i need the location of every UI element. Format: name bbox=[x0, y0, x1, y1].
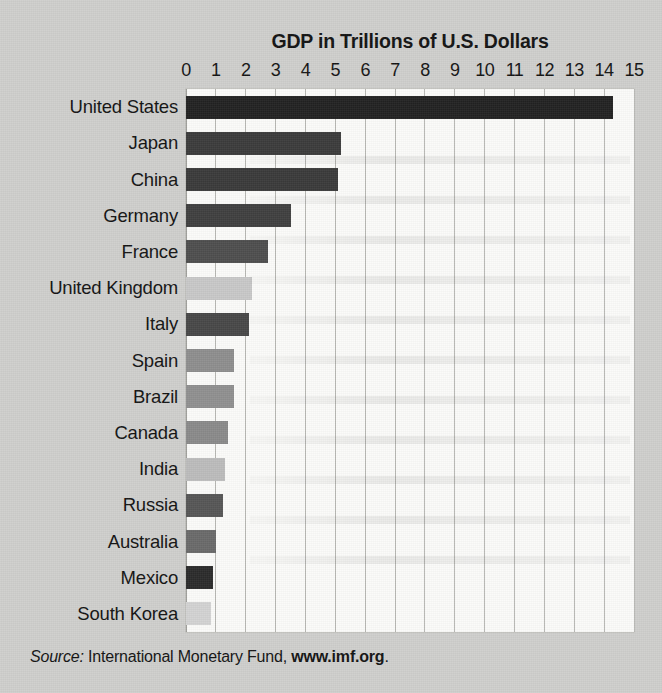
x-tick-label-9: 9 bbox=[450, 60, 460, 81]
category-label-brazil: Brazil bbox=[0, 386, 178, 408]
x-tick-label-15: 15 bbox=[624, 60, 643, 81]
category-label-south-korea: South Korea bbox=[0, 603, 178, 625]
category-axis-labels: United StatesJapanChinaGermanyFranceUnit… bbox=[0, 89, 178, 632]
category-label-united-states: United States bbox=[0, 96, 178, 118]
category-label-australia: Australia bbox=[0, 531, 178, 553]
category-label-france: France bbox=[0, 241, 178, 263]
bar-india bbox=[186, 458, 225, 481]
x-tick-label-2: 2 bbox=[241, 60, 251, 81]
bar-italy bbox=[186, 313, 249, 336]
category-label-russia: Russia bbox=[0, 494, 178, 516]
bar-united-kingdom bbox=[186, 277, 252, 300]
x-tick-label-12: 12 bbox=[535, 60, 554, 81]
category-label-china: China bbox=[0, 169, 178, 191]
category-label-india: India bbox=[0, 458, 178, 480]
x-tick-label-0: 0 bbox=[181, 60, 191, 81]
plot-area bbox=[186, 89, 634, 632]
x-axis-tick-labels: 0123456789101112131415 bbox=[186, 60, 634, 86]
source-period: . bbox=[384, 648, 388, 665]
bar-united-states bbox=[186, 96, 613, 119]
chart-title: GDP in Trillions of U.S. Dollars bbox=[186, 30, 634, 53]
bar-france bbox=[186, 240, 268, 263]
x-tick-label-11: 11 bbox=[506, 60, 524, 81]
x-tick-label-13: 13 bbox=[565, 60, 584, 81]
bar-south-korea bbox=[186, 602, 211, 625]
category-label-italy: Italy bbox=[0, 313, 178, 335]
source-url[interactable]: www.imf.org bbox=[291, 648, 384, 665]
category-label-japan: Japan bbox=[0, 132, 178, 154]
x-tick-label-8: 8 bbox=[420, 60, 430, 81]
source-text: International Monetary Fund, bbox=[84, 648, 291, 665]
x-tick-label-5: 5 bbox=[331, 60, 341, 81]
gdp-bar-chart-figure: GDP in Trillions of U.S. Dollars 0123456… bbox=[0, 0, 662, 693]
x-tick-label-6: 6 bbox=[360, 60, 370, 81]
bar-russia bbox=[186, 494, 223, 517]
x-tick-label-10: 10 bbox=[475, 60, 494, 81]
bar-mexico bbox=[186, 566, 213, 589]
x-tick-label-3: 3 bbox=[271, 60, 281, 81]
x-tick-label-1: 1 bbox=[211, 60, 221, 81]
bar-spain bbox=[186, 349, 234, 372]
bar-china bbox=[186, 168, 338, 191]
bar-brazil bbox=[186, 385, 234, 408]
bar-australia bbox=[186, 530, 216, 553]
category-label-united-kingdom: United Kingdom bbox=[0, 277, 178, 299]
bar-germany bbox=[186, 204, 291, 227]
bars-layer bbox=[186, 89, 634, 632]
bar-japan bbox=[186, 132, 341, 155]
source-label: Source: bbox=[30, 648, 84, 665]
bar-canada bbox=[186, 421, 228, 444]
category-label-spain: Spain bbox=[0, 350, 178, 372]
x-tick-label-7: 7 bbox=[390, 60, 400, 81]
x-tick-label-14: 14 bbox=[595, 60, 614, 81]
category-label-canada: Canada bbox=[0, 422, 178, 444]
category-label-germany: Germany bbox=[0, 205, 178, 227]
category-label-mexico: Mexico bbox=[0, 567, 178, 589]
x-tick-label-4: 4 bbox=[301, 60, 311, 81]
source-note: Source: International Monetary Fund, www… bbox=[30, 648, 389, 666]
